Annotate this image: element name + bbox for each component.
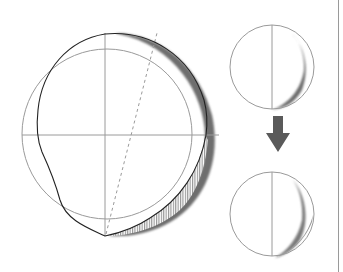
diagram	[0, 0, 343, 272]
panel-divider	[338, 0, 339, 272]
before-figure	[230, 25, 314, 110]
tilted-axis-dashed	[106, 33, 157, 234]
main-figure	[22, 33, 219, 236]
side-panel	[230, 25, 314, 258]
down-arrow-icon	[266, 116, 290, 152]
reference-circle	[22, 49, 192, 219]
after-shadow	[275, 180, 306, 258]
after-figure	[230, 172, 314, 258]
hatched-crescent	[107, 135, 208, 236]
